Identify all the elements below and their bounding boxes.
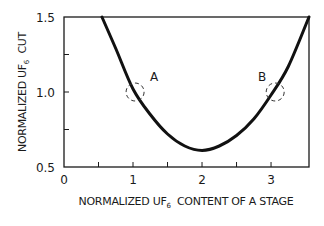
- y-tick-label: 1.0: [36, 86, 55, 100]
- x-tick-label: 1: [129, 173, 137, 187]
- annotation-circle-b: [266, 83, 284, 101]
- y-tick-label: 0.5: [36, 161, 55, 175]
- x-tick-label: 0: [60, 173, 68, 187]
- annotation-label-b: B: [258, 70, 266, 84]
- chart: 0123 0.51.01.5 AB NORMALIZED UF6 CONTENT…: [0, 0, 324, 226]
- annotation-label-a: A: [150, 70, 159, 84]
- x-tick-label: 2: [198, 173, 206, 187]
- y-axis-label: NORMALIZED UF6 CUT: [16, 31, 31, 152]
- x-axis-label: NORMALIZED UF6 CONTENT OF A STAGE: [79, 195, 294, 210]
- y-tick-label: 1.5: [36, 11, 55, 25]
- x-axis-ticks: 0123: [60, 162, 275, 187]
- x-tick-label: 3: [267, 173, 275, 187]
- annotations: AB: [126, 70, 284, 101]
